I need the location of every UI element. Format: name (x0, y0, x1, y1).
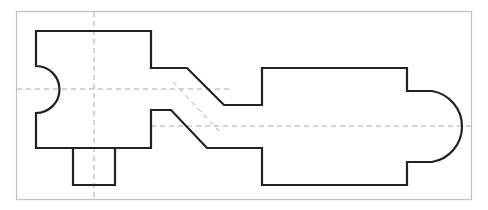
neck-diagonal-centerline (173, 82, 219, 131)
part-outline (36, 31, 462, 185)
drawing-canvas (0, 0, 488, 210)
